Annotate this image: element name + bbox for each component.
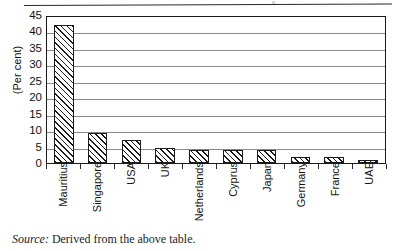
bar-slot — [351, 17, 385, 163]
y-axis-tick-label: 5 — [18, 142, 42, 154]
x-label-slot: UK — [148, 170, 182, 228]
y-axis-tick-label: 35 — [18, 43, 42, 55]
x-label-slot: UAE — [352, 170, 386, 228]
y-axis-tick-label: 0 — [18, 158, 42, 170]
plot-area — [46, 16, 386, 164]
y-axis-tick-label: 20 — [18, 92, 42, 104]
x-axis-category-label: Singapore — [90, 158, 104, 238]
x-label-slot: USA — [114, 170, 148, 228]
x-axis-category-label: Netherlands — [192, 158, 206, 238]
bars-group — [47, 17, 385, 163]
bar-slot — [317, 17, 351, 163]
bar-slot — [115, 17, 149, 163]
x-axis-tick — [318, 164, 319, 169]
source-note: Source: Derived from the above table. — [12, 232, 195, 246]
source-note-label: Source: — [12, 232, 49, 246]
y-axis-tick-label: 25 — [18, 76, 42, 88]
x-axis-tick — [386, 164, 387, 169]
x-label-slot: Cyprus — [216, 170, 250, 228]
bar-slot — [81, 17, 115, 163]
x-axis-category-label: UK — [158, 158, 172, 238]
x-axis-category-label: USA — [124, 158, 138, 238]
x-axis-tick — [80, 164, 81, 169]
x-axis-category-label: Japan — [260, 158, 274, 238]
x-axis-tick — [114, 164, 115, 169]
x-axis-tick — [250, 164, 251, 169]
x-axis-tick — [46, 164, 47, 169]
x-axis-category-label: Mauritius — [56, 158, 70, 238]
bar-slot — [216, 17, 250, 163]
x-axis-category-labels: MauritiusSingaporeUSAUKNetherlandsCyprus… — [46, 170, 386, 228]
y-axis-tick-label: 10 — [18, 125, 42, 137]
bar-slot — [250, 17, 284, 163]
x-axis-category-label: UAE — [362, 158, 376, 238]
x-axis-category-label: Cyprus — [226, 158, 240, 238]
x-axis-tick — [216, 164, 217, 169]
bar-chart-figure: (Per cent) 454035302520151050 MauritiusS… — [0, 0, 397, 251]
x-label-slot: Japan — [250, 170, 284, 228]
bar-slot — [47, 17, 81, 163]
bar-slot — [148, 17, 182, 163]
x-label-slot: Singapore — [80, 170, 114, 228]
x-axis-tick — [284, 164, 285, 169]
x-label-slot: Netherlands — [182, 170, 216, 228]
y-axis-tick-labels: 454035302520151050 — [18, 16, 42, 164]
x-axis-tick — [148, 164, 149, 169]
y-axis-tick-label: 30 — [18, 59, 42, 71]
bar — [54, 25, 74, 163]
bar-slot — [182, 17, 216, 163]
x-label-slot: Mauritius — [46, 170, 80, 228]
source-note-text: Derived from the above table. — [52, 232, 196, 246]
x-axis-category-label: France — [328, 158, 342, 238]
x-label-slot: Germany — [284, 170, 318, 228]
x-label-slot: France — [318, 170, 352, 228]
x-axis-tick — [182, 164, 183, 169]
x-axis-tick — [352, 164, 353, 169]
x-axis-category-label: Germany — [294, 158, 308, 238]
y-axis-tick-label: 40 — [18, 26, 42, 38]
y-axis-tick-label: 15 — [18, 109, 42, 121]
y-axis-tick-label: 45 — [18, 10, 42, 22]
bar-slot — [284, 17, 318, 163]
